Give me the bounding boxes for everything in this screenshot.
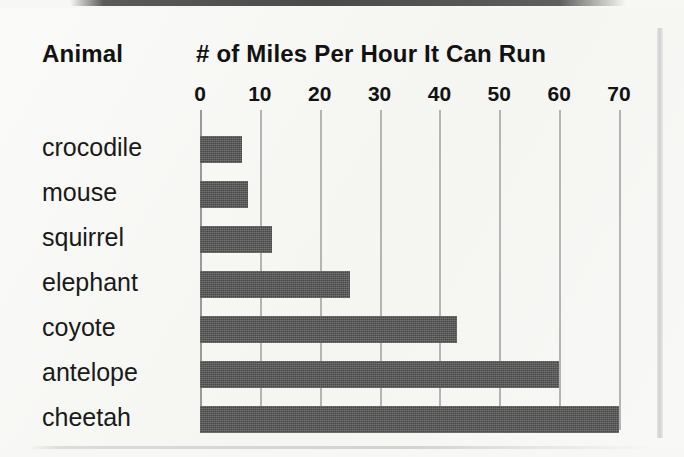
x-tick-label-40: 40 <box>428 82 451 106</box>
bar-row: coyote <box>0 307 684 352</box>
bar-row: cheetah <box>0 397 684 442</box>
scanned-bar-chart-page: Animal # of Miles Per Hour It Can Run 01… <box>0 0 684 457</box>
category-label-crocodile: crocodile <box>42 133 142 162</box>
bar-row: antelope <box>0 352 684 397</box>
bar-squirrel <box>200 226 272 253</box>
category-label-squirrel: squirrel <box>42 223 124 252</box>
bar-mouse <box>200 181 248 208</box>
bar-antelope <box>200 361 559 388</box>
x-tick-label-30: 30 <box>368 82 391 106</box>
measure-column-header: # of Miles Per Hour It Can Run <box>196 40 546 68</box>
plot-area: crocodilemousesquirrelelephantcoyoteante… <box>0 110 684 435</box>
x-tick-label-20: 20 <box>308 82 331 106</box>
animal-column-header: Animal <box>42 40 123 68</box>
bar-elephant <box>200 271 350 298</box>
scan-top-edge-artifact <box>70 0 626 6</box>
column-headers: Animal # of Miles Per Hour It Can Run <box>0 40 684 74</box>
bar-coyote <box>200 316 457 343</box>
category-label-cheetah: cheetah <box>42 403 131 432</box>
bar-cheetah <box>200 406 619 433</box>
x-tick-label-60: 60 <box>547 82 570 106</box>
x-axis-tick-labels: 010203040506070 <box>0 82 684 110</box>
scan-right-edge-artifact <box>657 28 663 438</box>
x-tick-label-10: 10 <box>248 82 271 106</box>
scan-bottom-edge-artifact <box>28 446 658 449</box>
bar-row: squirrel <box>0 217 684 262</box>
bar-crocodile <box>200 136 242 163</box>
x-tick-label-50: 50 <box>488 82 511 106</box>
bar-row: elephant <box>0 262 684 307</box>
category-label-mouse: mouse <box>42 178 117 207</box>
bar-row: crocodile <box>0 127 684 172</box>
x-tick-label-70: 70 <box>607 82 630 106</box>
category-label-coyote: coyote <box>42 313 116 342</box>
x-tick-label-0: 0 <box>194 82 206 106</box>
bar-row: mouse <box>0 172 684 217</box>
category-label-antelope: antelope <box>42 358 138 387</box>
category-label-elephant: elephant <box>42 268 138 297</box>
